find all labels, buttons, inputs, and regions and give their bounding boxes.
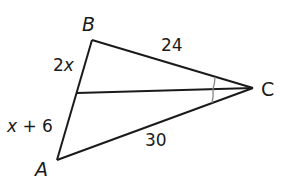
triangle-diagram: B C A 2x x + 6 24 30 <box>0 0 282 177</box>
segment-label-ac: 30 <box>145 130 167 150</box>
angle-bisector <box>77 88 253 93</box>
angle-arc-lower <box>212 89 213 103</box>
vertex-label-a: A <box>33 158 48 177</box>
angle-arc-upper <box>213 77 215 89</box>
vertex-label-b: B <box>82 13 95 35</box>
segment-label-da: x + 6 <box>6 116 53 136</box>
segment-label-bd: 2x <box>53 55 75 75</box>
segment-label-bc: 24 <box>161 35 183 55</box>
vertex-label-c: C <box>261 78 274 100</box>
